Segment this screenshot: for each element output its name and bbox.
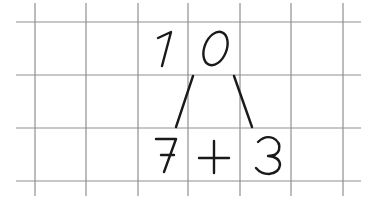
right-branch-line xyxy=(234,76,252,127)
plus-sign xyxy=(199,141,229,173)
whole-number xyxy=(158,28,232,69)
grid-paper xyxy=(16,3,361,196)
digit-three xyxy=(256,137,280,174)
digit-one xyxy=(158,32,171,66)
digit-zero xyxy=(199,28,233,69)
left-branch-line xyxy=(176,76,193,127)
number-bond-figure: 10 7 + 3 xyxy=(0,0,368,199)
parts-expression xyxy=(156,137,280,174)
